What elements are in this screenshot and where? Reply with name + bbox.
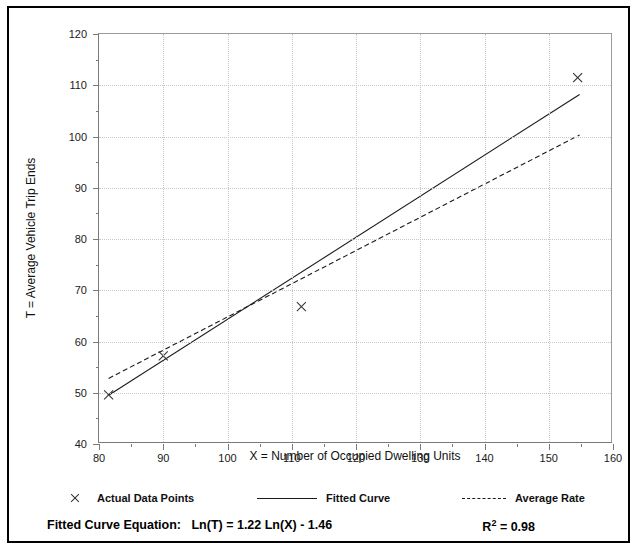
footer-row: Fitted Curve Equation: Ln(T) = 1.22 Ln(X… — [7, 518, 630, 542]
y-tick — [93, 34, 99, 35]
x-tick — [613, 444, 614, 450]
y-tick — [93, 444, 99, 445]
r2-number: = 0.98 — [500, 520, 535, 534]
data-point-x-marker — [573, 73, 582, 82]
legend-item-actual-data-points: Actual Data Points — [62, 487, 194, 509]
y-gridline — [99, 290, 611, 291]
y-gridline — [99, 188, 611, 189]
x-tick-label: 130 — [411, 452, 429, 464]
x-tick-label: 100 — [218, 452, 236, 464]
legend-label: Actual Data Points — [97, 492, 194, 504]
x-tick — [99, 444, 100, 450]
legend-item-average-rate: Average Rate — [462, 487, 585, 509]
x-tick-label: 150 — [540, 452, 558, 464]
x-tick — [260, 444, 261, 447]
x-gridline — [549, 34, 550, 442]
chart-legend: Actual Data Points Fitted Curve Average … — [7, 487, 630, 511]
plot-axes: 8090100110120130140150160405060708090100… — [98, 33, 612, 443]
y-gridline — [99, 85, 611, 86]
y-tick-label: 50 — [75, 387, 87, 399]
y-tick — [93, 85, 99, 86]
x-tick — [195, 444, 196, 447]
y-tick-label: 60 — [75, 336, 87, 348]
chart-page: T = Average Vehicle Trip Ends X = Number… — [0, 0, 637, 549]
x-tick — [452, 444, 453, 447]
x-marker-icon — [62, 492, 88, 504]
y-tick-label: 90 — [75, 182, 87, 194]
x-tick — [163, 444, 164, 450]
y-gridline — [99, 342, 611, 343]
x-tick — [356, 444, 357, 450]
fitted-curve-equation: Fitted Curve Equation: Ln(T) = 1.22 Ln(X… — [47, 518, 332, 532]
x-gridline — [420, 34, 421, 442]
series-line-solid — [109, 94, 580, 395]
y-tick-label: 100 — [69, 131, 87, 143]
y-tick-label: 70 — [75, 284, 87, 296]
data-point-x-marker — [104, 390, 113, 399]
x-tick — [131, 444, 132, 447]
x-gridline — [356, 34, 357, 442]
x-tick-label: 80 — [93, 452, 105, 464]
plot-area-wrapper: T = Average Vehicle Trip Ends X = Number… — [0, 0, 637, 549]
x-tick — [581, 444, 582, 447]
y-tick — [96, 367, 99, 368]
legend-item-fitted-curve: Fitted Curve — [257, 487, 390, 509]
equation-label: Fitted Curve Equation: — [47, 518, 181, 532]
y-tick — [96, 316, 99, 317]
y-gridline — [99, 239, 611, 240]
x-tick-label: 90 — [157, 452, 169, 464]
x-gridline — [292, 34, 293, 442]
x-tick-label: 160 — [604, 452, 622, 464]
x-gridline — [163, 34, 164, 442]
x-tick — [485, 444, 486, 450]
y-tick — [96, 111, 99, 112]
equation-expression: Ln(T) = 1.22 Ln(X) - 1.46 — [191, 518, 332, 532]
r2-exponent: 2 — [491, 518, 496, 528]
y-tick-label: 120 — [69, 28, 87, 40]
y-tick — [96, 162, 99, 163]
y-tick — [93, 342, 99, 343]
data-point-x-marker — [297, 302, 306, 311]
y-tick — [96, 265, 99, 266]
dashed-line-icon — [462, 492, 506, 504]
x-gridline — [228, 34, 229, 442]
y-tick — [96, 60, 99, 61]
x-tick — [420, 444, 421, 450]
y-tick — [96, 213, 99, 214]
y-tick — [93, 137, 99, 138]
y-axis-title: T = Average Vehicle Trip Ends — [24, 158, 38, 319]
x-tick — [549, 444, 550, 450]
x-tick — [324, 444, 325, 447]
x-tick — [388, 444, 389, 447]
solid-line-icon — [257, 492, 317, 504]
y-tick — [93, 393, 99, 394]
x-tick-label: 140 — [475, 452, 493, 464]
y-tick — [96, 418, 99, 419]
y-gridline — [99, 137, 611, 138]
y-tick-label: 80 — [75, 233, 87, 245]
legend-label: Average Rate — [515, 492, 585, 504]
x-tick-label: 110 — [283, 452, 301, 464]
y-tick — [93, 188, 99, 189]
y-tick-label: 110 — [69, 79, 87, 91]
r-squared-value: R2 = 0.98 — [482, 518, 535, 534]
y-tick-label: 40 — [75, 438, 87, 450]
x-gridline — [485, 34, 486, 442]
y-tick — [93, 239, 99, 240]
legend-label: Fitted Curve — [326, 492, 390, 504]
x-tick — [292, 444, 293, 450]
y-tick — [93, 290, 99, 291]
y-gridline — [99, 393, 611, 394]
x-tick — [517, 444, 518, 447]
x-tick — [228, 444, 229, 450]
x-tick-label: 120 — [347, 452, 365, 464]
